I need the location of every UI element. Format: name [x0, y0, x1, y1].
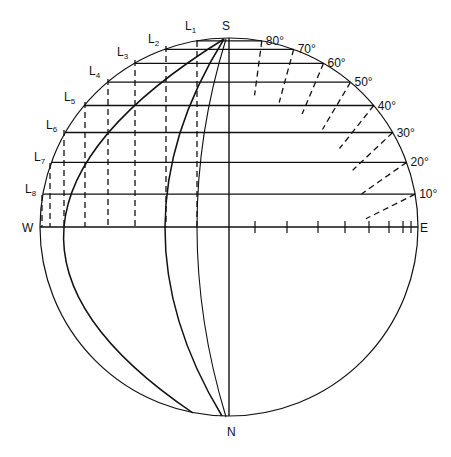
latitude-label: 60°: [328, 56, 346, 70]
stereographic-projection-diagram: S N W E 10°20°30°40°50°60°70°80°L1L2L3L4…: [0, 0, 451, 457]
latitude-label: 80°: [266, 34, 284, 48]
l-point-label: L5: [64, 90, 76, 106]
l-point-label: L8: [25, 182, 37, 198]
projection-dashed-line: [279, 49, 293, 102]
direction-label-west: W: [22, 221, 34, 235]
latitude-label: 10°: [419, 187, 437, 201]
projection-dashed-line: [302, 63, 323, 114]
l-point-label: L1: [185, 19, 197, 35]
great-circle-arc: [64, 39, 224, 413]
projection-dashed-line: [339, 106, 373, 149]
l-point-label: L4: [89, 64, 101, 80]
great-circle-arc: [197, 39, 226, 417]
projection-dashed-line: [353, 133, 393, 171]
latitude-label: 50°: [354, 75, 372, 89]
l-point-label: L6: [46, 118, 58, 134]
latitude-label: 30°: [397, 126, 415, 140]
latitude-label: 70°: [298, 42, 316, 56]
projection-dashed-line: [362, 162, 407, 194]
latitude-label: 20°: [411, 155, 429, 169]
l-point-label: L3: [117, 45, 129, 61]
pole-label-south: S: [222, 19, 230, 33]
projection-dashed-line: [366, 194, 415, 219]
l-point-label: L7: [34, 150, 46, 166]
latitude-label: 40°: [378, 99, 396, 113]
direction-label-east: E: [420, 221, 428, 235]
diagram-lines: [40, 38, 418, 417]
l-point-label: L2: [148, 32, 160, 48]
pole-label-north: N: [227, 425, 236, 439]
